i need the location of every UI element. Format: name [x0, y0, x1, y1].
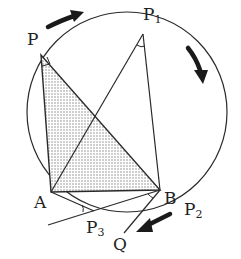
- label-A: A: [34, 194, 46, 211]
- label-P1: P1: [143, 6, 161, 25]
- angle-mark-P3: [82, 205, 83, 212]
- arrow-icon-right: [188, 48, 208, 84]
- segment-P1-B: [143, 34, 160, 190]
- arrow-icon-bottom: [136, 214, 170, 232]
- shaded-triangle-PAB: [41, 55, 160, 192]
- label-P2: P2: [184, 201, 202, 220]
- angle-mark-B: [148, 194, 153, 198]
- label-Q: Q: [113, 236, 127, 253]
- diagram-canvas: P P1 A B P2 P3 Q: [0, 0, 241, 259]
- segment-A-P3: [51, 192, 94, 211]
- label-P: P: [27, 31, 38, 48]
- label-B: B: [164, 190, 177, 207]
- label-P3: P3: [86, 219, 104, 238]
